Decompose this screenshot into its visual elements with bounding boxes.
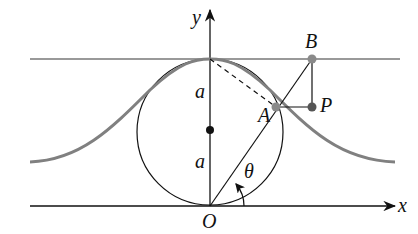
theta-arc [236, 184, 244, 206]
label-B: B [305, 30, 317, 52]
label-O: O [202, 210, 216, 232]
label-x: x [397, 194, 407, 216]
label-y: y [190, 6, 201, 29]
dashed-line [210, 59, 276, 107]
label-A: A [256, 104, 271, 126]
point-A [272, 103, 281, 112]
point-P [308, 103, 317, 112]
point-B [308, 55, 317, 64]
agnesi-curve [30, 59, 395, 162]
label-P: P [319, 94, 332, 116]
center-point [206, 126, 214, 134]
agnesi-diagram: y x B A P O θ a a [0, 0, 418, 234]
label-a-upper: a [195, 80, 205, 102]
label-theta: θ [244, 160, 254, 182]
label-a-lower: a [195, 150, 205, 172]
